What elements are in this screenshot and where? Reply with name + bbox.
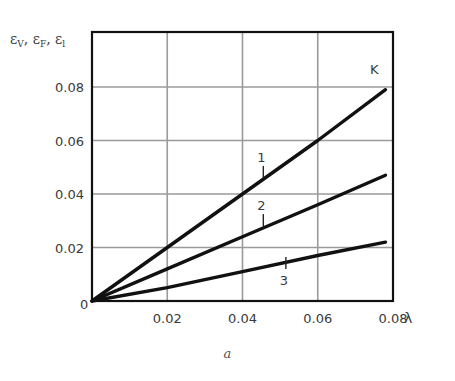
x-tick-label: 0.02 xyxy=(153,311,182,326)
y-tick-label: 0.06 xyxy=(55,134,84,149)
grid xyxy=(92,32,393,301)
y-tick-label: 0.02 xyxy=(55,241,84,256)
end-annotation-k: K xyxy=(370,62,379,77)
y-axis-label: εV, εF, εl xyxy=(10,31,65,49)
tick-label-origin: 0 xyxy=(80,297,88,312)
y-tick-label: 0.08 xyxy=(55,80,84,95)
y-tick-label: 0.04 xyxy=(55,187,84,202)
curve-label-2: 2 xyxy=(257,198,265,213)
line-chart: 00.020.040.060.080.020.040.060.08 123 εV… xyxy=(0,0,455,381)
curve-label-1: 1 xyxy=(257,150,265,165)
x-tick-label: 0.06 xyxy=(303,311,332,326)
x-axis-label: λ xyxy=(404,310,412,326)
curve-label-3: 3 xyxy=(280,273,288,288)
x-tick-label: 0.04 xyxy=(228,311,257,326)
curves xyxy=(92,90,385,301)
figure-caption: a xyxy=(0,346,455,361)
